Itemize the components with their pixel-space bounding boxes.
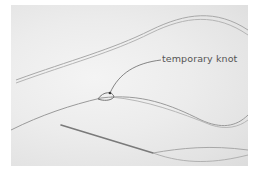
thread-photo: temporary knot [11,5,248,166]
temporary-knot-label: temporary knot [162,53,237,64]
middle-thread-tail [111,97,248,127]
annotation-leader-line [110,60,161,93]
thread-illustration [11,5,248,166]
upper-thread-second-strand [16,19,248,83]
needle-thread-lower [153,153,248,162]
needle [61,125,153,153]
needle-thread-upper [153,147,248,153]
knot-loop [98,93,114,101]
